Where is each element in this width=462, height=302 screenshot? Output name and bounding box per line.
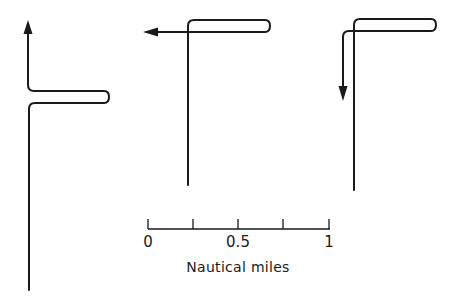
maneuver-diagram: [0, 0, 462, 302]
scale-unit-label: Nautical miles: [186, 259, 289, 275]
arrow-up-icon: [24, 20, 33, 34]
scale-label-1: 1: [324, 233, 334, 251]
scale-label-half: 0.5: [226, 233, 250, 251]
maneuver-track-1: [24, 20, 110, 290]
arrow-down-icon: [339, 86, 348, 101]
scale-label-0: 0: [143, 233, 153, 251]
maneuver-track-2: [143, 20, 270, 185]
scale-bar: [148, 219, 330, 229]
arrow-left-icon: [143, 28, 158, 37]
maneuver-track-3: [339, 19, 437, 190]
